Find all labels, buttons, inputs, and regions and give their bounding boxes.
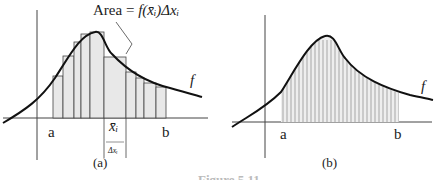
label-delta-x: Δxᵢ bbox=[108, 146, 118, 155]
riemann-sum-diagram bbox=[0, 0, 437, 180]
label-f-left: f bbox=[190, 72, 194, 89]
label-a-right: a bbox=[280, 126, 287, 143]
caption-b: (b) bbox=[322, 155, 337, 171]
rectangles-a bbox=[53, 32, 166, 118]
annotation-arrow bbox=[116, 22, 132, 54]
label-xi: x̄ᵢ bbox=[109, 118, 118, 135]
figure-caption: Figure 5.11 bbox=[198, 172, 260, 180]
caption-a: (a) bbox=[93, 155, 107, 171]
area-annotation: Area = f(x̄ᵢ)Δxᵢ bbox=[93, 2, 179, 19]
label-b-left: b bbox=[162, 124, 170, 141]
label-f-right: f bbox=[421, 78, 425, 95]
label-a-left: a bbox=[48, 124, 55, 141]
label-b-right: b bbox=[394, 126, 402, 143]
